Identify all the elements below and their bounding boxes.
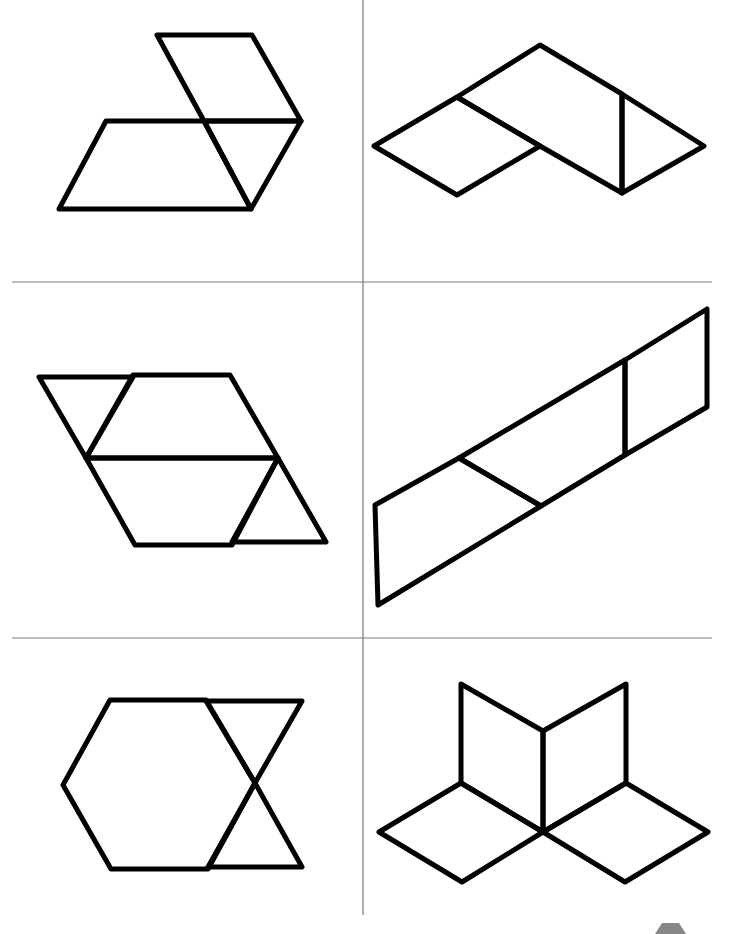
panel-3 <box>39 375 326 545</box>
hexagon-shape <box>63 700 255 869</box>
rhombus-shape <box>543 783 708 882</box>
rhombus-shape <box>157 35 301 121</box>
corner-mark-shape <box>655 923 686 934</box>
worksheet-canvas <box>0 0 731 934</box>
trapezoid-shape <box>457 45 622 193</box>
rhombus-shape <box>459 360 625 506</box>
triangle-shape <box>622 94 704 193</box>
rhombus-shape <box>379 783 543 882</box>
panel-6 <box>379 684 708 882</box>
trapezoid-shape <box>86 458 278 545</box>
triangle-shape <box>208 783 302 867</box>
panel-5 <box>63 700 302 869</box>
triangle-shape <box>232 458 326 542</box>
rhombus-shape <box>625 309 707 455</box>
panel-4 <box>375 309 707 605</box>
panel-1 <box>59 35 301 209</box>
rhombus-shape <box>374 97 540 195</box>
triangle-shape <box>204 121 301 209</box>
triangle-shape <box>39 377 133 458</box>
trapezoid-shape <box>375 458 541 605</box>
shape-panels <box>39 35 708 882</box>
panel-2 <box>374 45 704 195</box>
trapezoid-shape <box>86 375 278 458</box>
triangle-shape <box>206 701 302 783</box>
trapezoid-shape <box>59 121 251 209</box>
